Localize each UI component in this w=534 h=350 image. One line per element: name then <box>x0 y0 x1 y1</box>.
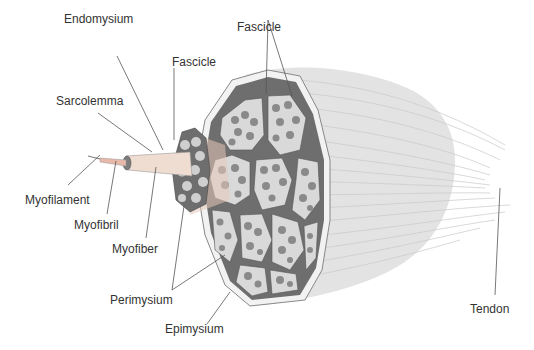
label-myofibril: Myofibril <box>74 218 119 232</box>
label-myofiber: Myofiber <box>112 242 158 256</box>
label-epimysium: Epimysium <box>165 322 224 336</box>
label-myofilament: Myofilament <box>25 193 90 207</box>
label-fascicle-large: Fascicle <box>237 20 281 34</box>
label-tendon: Tendon <box>470 302 509 316</box>
label-endomysium: Endomysium <box>64 12 133 26</box>
muscle-structure-diagram <box>0 0 534 350</box>
label-fascicle-small: Fascicle <box>172 55 216 69</box>
label-perimysium: Perimysium <box>110 293 173 307</box>
myofiber <box>123 152 192 176</box>
label-sarcolemma: Sarcolemma <box>56 94 123 108</box>
